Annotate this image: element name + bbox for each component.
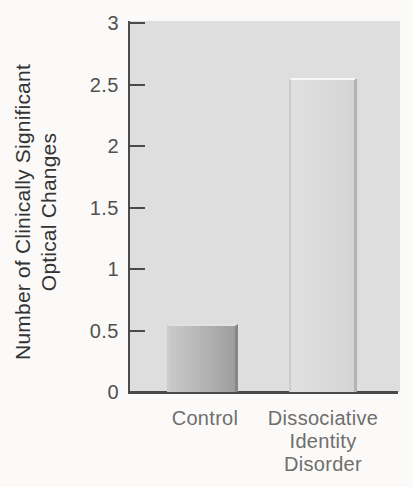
y-tick-label-2.5: 2.5 [49,72,119,98]
bar-dissociative-identity-disorder [289,78,357,392]
y-tick-label-1.5: 1.5 [49,195,119,221]
bar-control [167,324,238,392]
y-tick-label-2: 2 [49,133,119,159]
y-tick-label-0.5: 0.5 [49,318,119,344]
chart-figure: Number of Clinically Significant Optical… [0,0,413,487]
y-tick-1 [130,268,145,270]
y-tick-label-1: 1 [49,256,119,282]
y-tick-1.5 [130,207,145,209]
y-tick-label-0: 0 [49,379,119,405]
y-tick-label-3: 3 [49,10,119,36]
y-tick-2 [130,145,145,147]
y-tick-2.5 [130,84,145,86]
y-tick-3 [130,22,145,24]
x-tick-label-dissociative-identity-disorder: Dissociative Identity Disorder [233,407,413,476]
y-tick-0.5 [130,330,145,332]
